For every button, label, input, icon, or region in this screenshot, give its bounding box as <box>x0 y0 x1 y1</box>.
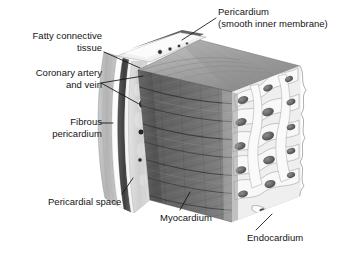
label-coronary-vessels-line2: and vein <box>66 79 102 90</box>
small-vessel-lumen-2 <box>138 158 143 163</box>
label-myocardium: Myocardium <box>160 212 236 224</box>
label-pericardium-line2: (smooth inner membrane) <box>218 18 328 29</box>
label-fatty-connective-tissue-line2: tissue <box>77 42 102 53</box>
label-pericardium-line1: Pericardium <box>218 6 269 17</box>
label-fibrous-pericardium-line1: Fibrous <box>70 116 102 127</box>
label-pericardial-space-line1: Pericardial space <box>48 196 121 207</box>
label-coronary-vessels-line1: Coronary artery <box>36 67 102 78</box>
label-fibrous-pericardium: Fibrouspericardium <box>2 116 102 139</box>
label-pericardial-space: Pericardial space <box>48 196 160 208</box>
label-fatty-connective-tissue-line1: Fatty connective <box>33 30 103 41</box>
label-endocardium-line1: Endocardium <box>247 232 303 243</box>
label-fibrous-pericardium-line2: pericardium <box>52 128 102 139</box>
heart-wall-diagram: Fatty connectivetissue Coronary arteryan… <box>0 0 354 254</box>
label-myocardium-line1: Myocardium <box>160 212 212 223</box>
label-fatty-connective-tissue: Fatty connectivetissue <box>2 30 102 53</box>
label-endocardium: Endocardium <box>247 232 333 244</box>
label-pericardium: Pericardium(smooth inner membrane) <box>218 6 352 29</box>
label-coronary-artery-and-vein: Coronary arteryand vein <box>2 67 102 90</box>
small-vessel-lumen-1 <box>138 129 144 135</box>
